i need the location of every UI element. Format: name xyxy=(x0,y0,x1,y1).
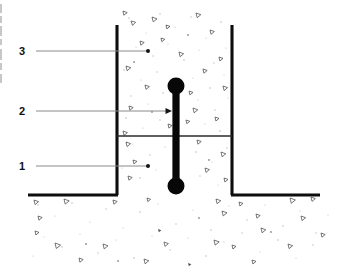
scan-edge-artifact xyxy=(0,4,2,83)
callout-2[interactable]: 2 xyxy=(19,105,172,117)
cross-section-drawing: 3 2 1 xyxy=(0,0,337,269)
ground-speckles xyxy=(32,202,328,262)
anchor-rod-bottom-bulb xyxy=(168,178,185,195)
ground-concrete-texture xyxy=(32,197,328,266)
anchor-rod-top-bulb xyxy=(168,78,185,95)
callout-1-label: 1 xyxy=(19,160,25,172)
callout-2-label: 2 xyxy=(19,105,25,117)
callout-3-label: 3 xyxy=(19,45,25,57)
callout-1-endpoint-dot xyxy=(146,164,150,168)
callout-3-endpoint-dot xyxy=(146,49,150,53)
callout-3[interactable]: 3 xyxy=(19,45,150,57)
callout-2-arrowhead xyxy=(166,108,173,114)
ground-aggregate-pebbles xyxy=(34,197,325,266)
callout-1[interactable]: 1 xyxy=(19,160,150,172)
anchor-rod-shaft xyxy=(172,86,179,186)
technical-diagram-figure: 3 2 1 xyxy=(0,0,337,269)
